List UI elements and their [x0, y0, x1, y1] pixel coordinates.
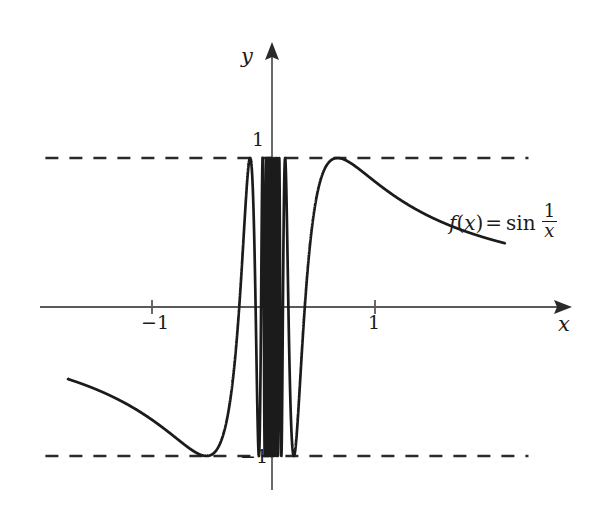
sin-one-over-x-plot	[0, 0, 605, 531]
annotation-fraction: 1 x	[542, 202, 557, 241]
annotation-sin: sin	[506, 213, 536, 233]
annotation-open-paren: (	[456, 213, 464, 233]
annotation-equals: =	[485, 213, 502, 233]
annotation-f: f	[449, 213, 456, 233]
y-axis-label: y	[241, 46, 253, 67]
x-axis-label: x	[558, 314, 570, 335]
x-tick-label-positive-one: 1	[368, 313, 380, 332]
x-tick-label-negative-one: −1	[141, 313, 169, 332]
annotation-variable: x	[464, 213, 475, 233]
y-tick-label-positive-one: 1	[252, 130, 264, 149]
annotation-fraction-numerator: 1	[542, 202, 557, 221]
annotation-fraction-denominator: x	[542, 222, 556, 241]
y-tick-label-negative-one: −1	[240, 447, 268, 466]
annotation-close-paren: )	[476, 213, 484, 233]
plot-background	[0, 0, 605, 531]
function-annotation: f ( x ) = sin 1 x	[449, 203, 557, 242]
